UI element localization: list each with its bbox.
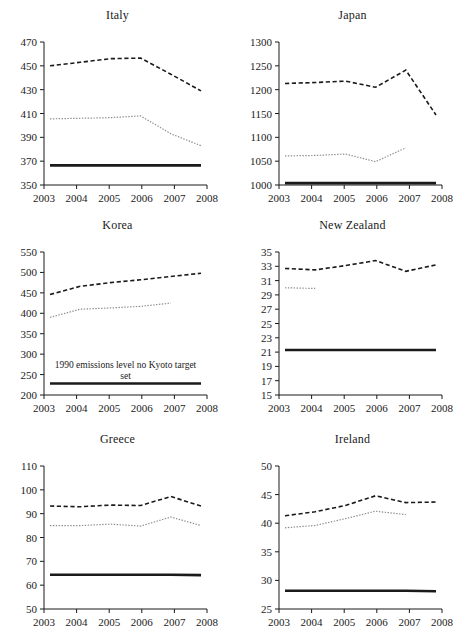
x-tick-label: 2006 bbox=[366, 616, 389, 628]
y-tick-label: 35 bbox=[261, 546, 273, 558]
y-tick-label: 19 bbox=[261, 360, 273, 372]
x-tick-label: 2006 bbox=[131, 616, 154, 628]
y-tick-label: 35 bbox=[261, 246, 273, 258]
y-tick-label: 27 bbox=[261, 303, 273, 315]
y-tick-label: 400 bbox=[21, 307, 38, 319]
x-tick-label: 2006 bbox=[131, 402, 154, 414]
y-tick-label: 60 bbox=[26, 579, 38, 591]
axis-lines bbox=[279, 42, 442, 185]
x-tick-label: 2005 bbox=[98, 402, 121, 414]
y-tick-label: 25 bbox=[261, 318, 273, 330]
x-tick-label: 2007 bbox=[398, 616, 421, 628]
y-tick-label: 21 bbox=[261, 346, 272, 358]
y-tick-label: 410 bbox=[21, 108, 38, 120]
y-tick-label: 350 bbox=[21, 179, 38, 191]
x-tick-label: 2005 bbox=[333, 616, 356, 628]
x-tick-label: 2005 bbox=[98, 192, 121, 204]
x-tick-label: 2004 bbox=[301, 402, 324, 414]
y-tick-label: 550 bbox=[21, 246, 38, 258]
axis-lines bbox=[44, 466, 207, 609]
x-tick-label: 2006 bbox=[131, 192, 154, 204]
y-tick-label: 70 bbox=[26, 555, 38, 567]
plot-svg: 5060708090100110200320042005200620072008 bbox=[0, 446, 235, 638]
y-tick-label: 470 bbox=[21, 36, 38, 48]
y-tick-label: 370 bbox=[21, 155, 38, 167]
y-tick-label: 31 bbox=[261, 275, 272, 287]
series-line-dashed bbox=[50, 58, 201, 91]
plot-area: 2002503003504004505005502003200420052006… bbox=[0, 232, 235, 428]
x-tick-label: 2005 bbox=[333, 402, 356, 414]
axis-lines bbox=[279, 466, 442, 609]
axis-lines bbox=[44, 42, 207, 185]
y-tick-label: 1200 bbox=[250, 84, 273, 96]
panel-title: Italy bbox=[0, 8, 235, 22]
x-tick-label: 2004 bbox=[66, 192, 89, 204]
x-tick-label: 2007 bbox=[398, 402, 421, 414]
x-tick-label: 2003 bbox=[33, 402, 56, 414]
y-tick-label: 15 bbox=[261, 389, 273, 401]
y-tick-label: 300 bbox=[21, 348, 38, 360]
plot-svg: 253035404550200320042005200620072008 bbox=[235, 446, 470, 638]
series-line-solid bbox=[285, 591, 436, 592]
y-tick-label: 1150 bbox=[250, 108, 272, 120]
y-tick-label: 29 bbox=[261, 289, 273, 301]
x-tick-label: 2006 bbox=[366, 192, 389, 204]
y-tick-label: 23 bbox=[261, 332, 273, 344]
y-tick-label: 33 bbox=[261, 260, 273, 272]
series-line-dotted bbox=[50, 303, 171, 317]
plot-area: 1517192123252729313335200320042005200620… bbox=[235, 232, 470, 428]
x-tick-label: 2008 bbox=[196, 192, 219, 204]
y-tick-label: 1300 bbox=[250, 36, 273, 48]
series-line-dotted bbox=[285, 288, 315, 289]
series-line-dashed bbox=[285, 70, 436, 115]
x-tick-label: 2004 bbox=[66, 402, 89, 414]
y-tick-label: 30 bbox=[261, 574, 273, 586]
small-multiples-figure: Italy35037039041043045047020032004200520… bbox=[0, 0, 470, 638]
x-tick-label: 2006 bbox=[366, 402, 389, 414]
y-tick-label: 500 bbox=[21, 266, 38, 278]
x-tick-label: 2004 bbox=[66, 616, 89, 628]
x-tick-label: 2003 bbox=[268, 192, 291, 204]
y-tick-label: 430 bbox=[21, 84, 38, 96]
plot-area: 5060708090100110200320042005200620072008 bbox=[0, 446, 235, 638]
y-tick-label: 100 bbox=[21, 484, 38, 496]
y-tick-label: 1050 bbox=[250, 155, 273, 167]
x-tick-label: 2004 bbox=[301, 192, 324, 204]
y-tick-label: 90 bbox=[26, 508, 38, 520]
axis-lines bbox=[279, 252, 442, 395]
panel-title: Japan bbox=[235, 8, 470, 22]
x-tick-label: 2007 bbox=[163, 616, 186, 628]
y-tick-label: 80 bbox=[26, 532, 38, 544]
x-tick-label: 2004 bbox=[301, 616, 324, 628]
y-tick-label: 1000 bbox=[250, 179, 273, 191]
x-tick-label: 2008 bbox=[431, 192, 454, 204]
series-line-dotted bbox=[285, 148, 406, 162]
x-tick-label: 2003 bbox=[268, 616, 291, 628]
x-tick-label: 2003 bbox=[268, 402, 291, 414]
y-tick-label: 390 bbox=[21, 131, 38, 143]
x-tick-label: 2008 bbox=[431, 402, 454, 414]
x-tick-label: 2008 bbox=[431, 616, 454, 628]
series-line-dotted bbox=[50, 517, 201, 526]
x-tick-label: 2005 bbox=[333, 192, 356, 204]
series-line-dashed bbox=[285, 261, 436, 272]
x-tick-label: 2007 bbox=[163, 192, 186, 204]
y-tick-label: 25 bbox=[261, 603, 273, 615]
series-line-dashed bbox=[50, 273, 201, 294]
y-tick-label: 1250 bbox=[250, 60, 273, 72]
plot-svg: 3503703904104304504702003200420052006200… bbox=[0, 22, 235, 218]
plot-area: 253035404550200320042005200620072008 bbox=[235, 446, 470, 638]
plot-svg: 2002503003504004505005502003200420052006… bbox=[0, 232, 235, 428]
plot-area: 1000105011001150120012501300200320042005… bbox=[235, 22, 470, 218]
annotation-line-2: set bbox=[120, 371, 131, 381]
y-tick-label: 40 bbox=[261, 517, 273, 529]
y-tick-label: 250 bbox=[21, 369, 38, 381]
y-tick-label: 17 bbox=[261, 375, 273, 387]
series-line-dotted bbox=[50, 116, 201, 146]
y-tick-label: 50 bbox=[26, 603, 38, 615]
plot-svg: 1000105011001150120012501300200320042005… bbox=[235, 22, 470, 218]
plot-svg: 1517192123252729313335200320042005200620… bbox=[235, 232, 470, 428]
x-tick-label: 2008 bbox=[196, 616, 219, 628]
y-tick-label: 45 bbox=[261, 489, 273, 501]
series-line-dashed bbox=[50, 497, 201, 507]
